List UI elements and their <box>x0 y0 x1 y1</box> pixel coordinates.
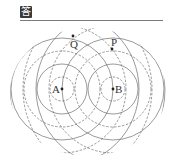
crest-circle-a <box>0 0 165 161</box>
source-b-label: B <box>115 83 122 95</box>
source-a-dot <box>61 88 64 91</box>
crest-circle-b <box>10 0 172 161</box>
trough-circle-a <box>0 0 152 161</box>
point-p-label: P <box>111 36 117 48</box>
source-a-label: A <box>52 83 60 95</box>
source-b-dot <box>112 88 115 91</box>
wave-circles <box>0 0 172 161</box>
point-q-dot <box>72 35 75 38</box>
interference-figure: A B Q P <box>0 0 172 161</box>
point-q-label: Q <box>70 38 78 50</box>
point-p-dot <box>111 48 114 51</box>
